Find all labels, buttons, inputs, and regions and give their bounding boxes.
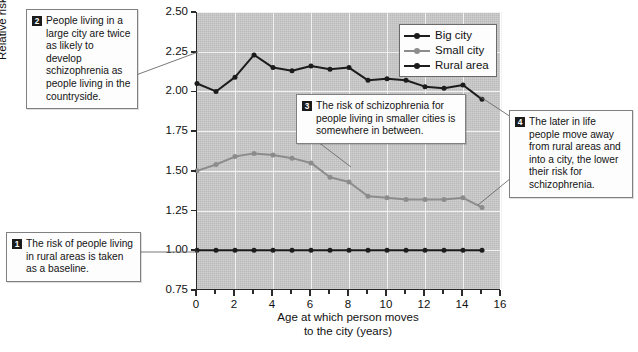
data-point	[385, 195, 390, 200]
y-tick-mark-1.25	[191, 210, 196, 212]
x-minor-tick-9	[366, 290, 368, 294]
callout-3-text: The risk of schizophrenia for people liv…	[316, 100, 459, 138]
x-minor-tick-15	[480, 290, 482, 294]
x-tick-mark-14	[461, 290, 463, 296]
data-point	[366, 194, 371, 199]
data-point	[404, 248, 409, 253]
data-point	[328, 175, 333, 180]
y-tick-label-2.25: 2.25	[154, 46, 188, 58]
data-point	[233, 154, 238, 159]
figure-root: 0.751.001.251.501.752.002.252.50 Relativ…	[0, 0, 638, 352]
data-point	[195, 81, 200, 86]
x-tick-label-14: 14	[447, 299, 477, 311]
y-tick-mark-2.50	[191, 11, 196, 13]
data-point	[461, 83, 466, 88]
y-tick-mark-2.25	[191, 51, 196, 53]
y-tick-label-0.75: 0.75	[154, 284, 188, 296]
callout-2-text: People living in a large city are twice …	[46, 15, 131, 103]
x-axis-label-line1: Age at which person moves	[277, 311, 418, 323]
data-point	[233, 75, 238, 80]
callout-1-badge: 1	[12, 239, 22, 249]
data-point	[461, 248, 466, 253]
x-tick-label-2: 2	[219, 299, 249, 311]
series-small-city	[195, 151, 485, 210]
y-tick-label-1.75: 1.75	[154, 125, 188, 137]
data-point	[461, 195, 466, 200]
data-point	[271, 65, 276, 70]
legend-label-small-city: Small city	[435, 43, 484, 58]
x-axis-label: Age at which person moves to the city (y…	[196, 310, 500, 338]
y-tick-label-1.25: 1.25	[154, 205, 188, 217]
data-point	[309, 64, 314, 69]
data-point	[385, 248, 390, 253]
data-point	[480, 97, 485, 102]
x-minor-tick-1	[214, 290, 216, 294]
y-tick-mark-1.00	[191, 249, 196, 251]
x-tick-mark-4	[271, 290, 273, 296]
y-tick-mark-2.00	[191, 91, 196, 93]
x-tick-mark-12	[423, 290, 425, 296]
callout-2: 2 People living in a large city are twic…	[26, 9, 138, 109]
data-point	[252, 52, 257, 57]
data-point	[442, 86, 447, 91]
x-tick-mark-0	[195, 290, 197, 296]
data-point	[328, 248, 333, 253]
x-tick-mark-16	[499, 290, 501, 296]
y-tick-label-1.50: 1.50	[154, 165, 188, 177]
legend-swatch-small-city	[404, 45, 430, 57]
x-minor-tick-5	[290, 290, 292, 294]
data-point	[423, 248, 428, 253]
data-point	[442, 197, 447, 202]
y-tick-label-1.00: 1.00	[154, 244, 188, 256]
data-point	[271, 248, 276, 253]
legend-swatch-rural-area	[404, 60, 430, 72]
data-point	[480, 248, 485, 253]
data-point	[366, 248, 371, 253]
x-minor-tick-7	[328, 290, 330, 294]
x-axis-label-line2: to the city (years)	[304, 325, 392, 337]
data-point	[271, 152, 276, 157]
data-point	[366, 78, 371, 83]
data-point	[290, 248, 295, 253]
callout-4: 4 The later in life people move away fro…	[509, 110, 633, 198]
legend-item-small-city: Small city	[404, 43, 489, 58]
y-tick-label-2.50: 2.50	[154, 6, 188, 18]
legend-item-rural-area: Rural area	[404, 58, 489, 73]
data-point	[252, 248, 257, 253]
data-point	[347, 179, 352, 184]
legend-swatch-big-city	[404, 30, 430, 42]
data-point	[290, 68, 295, 73]
data-point	[290, 156, 295, 161]
x-tick-mark-8	[347, 290, 349, 296]
data-point	[347, 65, 352, 70]
callout-4-badge: 4	[515, 117, 525, 127]
legend-label-rural-area: Rural area	[435, 58, 489, 73]
callout-1-text: The risk of people living in rural areas…	[26, 238, 134, 276]
x-tick-mark-2	[233, 290, 235, 296]
x-tick-mark-6	[309, 290, 311, 296]
gridline-x-16	[501, 12, 502, 289]
data-point	[328, 67, 333, 72]
x-tick-label-10: 10	[371, 299, 401, 311]
y-tick-label-2.00: 2.00	[154, 85, 188, 97]
callout-1: 1 The risk of people living in rural are…	[6, 232, 141, 282]
data-point	[480, 205, 485, 210]
callout-2-badge: 2	[32, 16, 42, 26]
data-point	[347, 248, 352, 253]
x-tick-label-6: 6	[295, 299, 325, 311]
data-point	[233, 248, 238, 253]
legend: Big city Small city Rural area	[399, 24, 497, 77]
x-tick-mark-10	[385, 290, 387, 296]
x-tick-label-16: 16	[485, 299, 515, 311]
data-point	[404, 197, 409, 202]
data-point	[385, 76, 390, 81]
series-rural-area	[195, 248, 485, 253]
data-point	[214, 89, 219, 94]
data-point	[252, 151, 257, 156]
data-point	[309, 248, 314, 253]
x-minor-tick-13	[442, 290, 444, 294]
legend-item-big-city: Big city	[404, 28, 489, 43]
callout-3-badge: 3	[302, 101, 312, 111]
y-tick-mark-1.50	[191, 170, 196, 172]
y-axis-label: Relative risk of schizophrenia	[0, 0, 8, 60]
